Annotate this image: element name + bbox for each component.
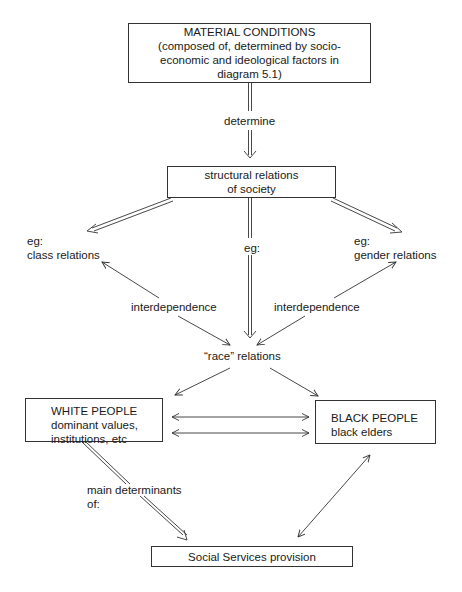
arrow-structural-to-class	[87, 198, 173, 233]
class-label: class relations	[27, 248, 100, 262]
gender-eg: eg:	[354, 234, 436, 248]
arrow-structural-to-gender	[331, 198, 402, 233]
node-gender-relations: eg: gender relations	[354, 234, 436, 262]
node-social-services: Social Services provision	[151, 546, 353, 567]
black-people-title: BLACK PEOPLE	[331, 411, 427, 425]
connector-layer	[0, 0, 462, 592]
material-conditions-line-2: economic and ideological factors in	[160, 53, 339, 67]
material-conditions-line-1: (composed of, determined by socio-	[158, 39, 341, 53]
diagram-canvas: MATERIAL CONDITIONS (composed of, determ…	[0, 0, 462, 592]
arrow-race-to-white	[175, 368, 230, 395]
label-eg-center: eg:	[243, 241, 261, 255]
white-people-line-2: institutions, etc	[51, 432, 154, 446]
material-conditions-title: MATERIAL CONDITIONS	[184, 25, 316, 39]
arrow-black-social	[298, 455, 370, 537]
material-conditions-line-3: diagram 5.1)	[217, 67, 282, 81]
node-race-relations: “race” relations	[204, 349, 281, 363]
node-class-relations: eg: class relations	[27, 234, 100, 262]
social-services-label: Social Services provision	[188, 550, 316, 564]
node-white-people: WHITE PEOPLE dominant values, institutio…	[25, 398, 163, 442]
white-people-line-1: dominant values,	[51, 418, 154, 432]
black-people-line-1: black elders	[331, 425, 427, 439]
arrow-race-to-black	[270, 368, 318, 396]
arrow-structural-to-race	[244, 198, 256, 338]
main-determinants-line-2: of:	[87, 497, 182, 511]
label-determine: determine	[224, 114, 275, 128]
label-interdependence-left: interdependence	[131, 300, 217, 314]
main-determinants-line-1: main determinants	[87, 483, 182, 497]
node-structural-relations: structural relations of society	[167, 166, 336, 198]
arrow-white-black-pair	[172, 417, 309, 433]
label-main-determinants: main determinants of:	[87, 483, 182, 511]
white-people-title: WHITE PEOPLE	[51, 404, 154, 418]
label-interdependence-right: interdependence	[274, 300, 360, 314]
class-eg: eg:	[27, 234, 100, 248]
node-material-conditions: MATERIAL CONDITIONS (composed of, determ…	[128, 23, 371, 83]
gender-label: gender relations	[354, 248, 436, 262]
structural-line-2: of society	[227, 182, 276, 196]
node-black-people: BLACK PEOPLE black elders	[315, 400, 436, 444]
structural-line-1: structural relations	[205, 168, 299, 182]
